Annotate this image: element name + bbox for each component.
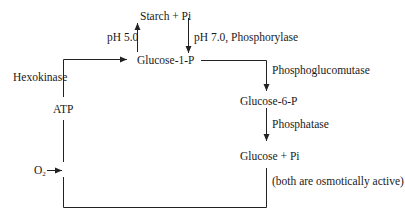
label-phosphoglucomutase: Phosphoglucomutase xyxy=(272,65,370,77)
node-glucose-6-p: Glucose-6-P xyxy=(240,96,298,108)
arrow-g1p-to-g6p xyxy=(201,61,267,92)
line-loop-bottom xyxy=(64,168,267,208)
node-glucose-pi: Glucose + Pi xyxy=(240,151,300,163)
label-ph-5: pH 5.0 xyxy=(107,32,138,44)
node-atp: ATP xyxy=(53,104,73,116)
node-starch-pi: Starch + Pi xyxy=(140,11,191,23)
node-o2: O2 xyxy=(34,165,46,178)
label-hexokinase: Hexokinase xyxy=(13,72,67,84)
label-osmotically-active-note: (both are osmotically active) xyxy=(272,176,404,188)
arrow-hexokinase-to-g1p xyxy=(64,60,128,98)
label-ph-7-phosphorylase: pH 7.0, Phosphorylase xyxy=(194,32,298,44)
node-glucose-1-p: Glucose-1-P xyxy=(137,55,195,67)
label-phosphatase: Phosphatase xyxy=(272,119,329,131)
